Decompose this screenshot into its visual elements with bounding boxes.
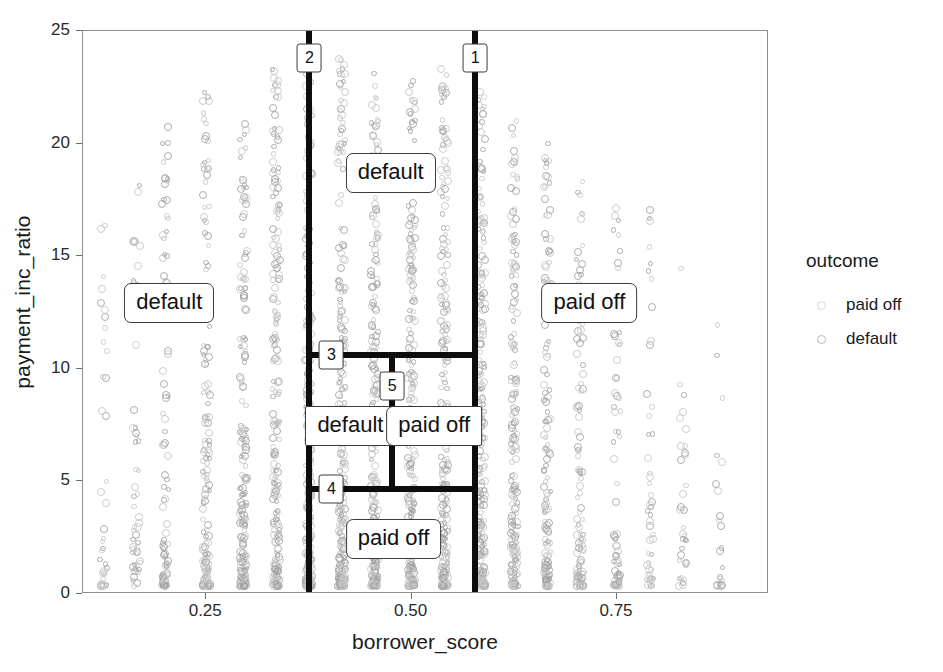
scatter-point: [438, 267, 446, 275]
scatter-point: [242, 228, 248, 234]
scatter-point: [574, 272, 582, 280]
scatter-point: [515, 176, 521, 182]
scatter-point: [714, 353, 720, 359]
scatter-point: [204, 539, 212, 547]
scatter-point: [717, 522, 725, 530]
scatter-point: [370, 571, 376, 577]
scatter-point: [205, 263, 211, 269]
scatter-point: [579, 370, 587, 378]
legend-item-paid-off[interactable]: paid off: [806, 288, 936, 322]
scatter-point: [166, 541, 172, 547]
scatter-point: [239, 436, 245, 442]
scatter-point: [646, 517, 654, 525]
scatter-point: [679, 490, 687, 498]
scatter-point: [237, 533, 245, 541]
scatter-point: [373, 478, 381, 486]
scatter-point: [271, 284, 279, 292]
scatter-point: [204, 560, 212, 568]
scatter-point: [205, 481, 213, 489]
scatter-point: [274, 93, 282, 101]
scatter-point: [242, 126, 250, 134]
scatter-point: [102, 499, 110, 507]
scatter-point: [511, 133, 517, 139]
tree-node-2[interactable]: 2: [297, 44, 322, 73]
scatter-point: [439, 99, 445, 105]
scatter-point: [136, 468, 142, 474]
scatter-point: [237, 262, 243, 268]
scatter-point: [715, 322, 721, 328]
legend-item-default[interactable]: default: [806, 322, 936, 356]
scatter-point: [408, 369, 414, 375]
scatter-point: [162, 391, 170, 399]
scatter-point: [409, 288, 415, 294]
scatter-point: [479, 176, 485, 182]
scatter-point: [165, 561, 171, 567]
scatter-point: [616, 570, 622, 576]
scatter-point: [444, 386, 450, 392]
scatter-point: [482, 542, 488, 548]
scatter-point: [480, 201, 486, 207]
scatter-point: [508, 522, 516, 530]
scatter-point: [161, 471, 169, 479]
scatter-point: [271, 144, 277, 150]
scatter-point: [716, 512, 724, 520]
scatter-point: [371, 71, 377, 77]
scatter-point: [242, 306, 250, 314]
scatter-point: [611, 559, 617, 565]
scatter-point: [544, 211, 552, 219]
scatter-point: [272, 417, 278, 423]
scatter-point: [161, 236, 167, 242]
scatter-point: [479, 386, 485, 392]
scatter-point: [271, 175, 279, 183]
tree-node-5[interactable]: 5: [380, 371, 405, 400]
scatter-point: [514, 252, 520, 258]
y-tick-label: 10: [28, 358, 70, 378]
scatter-point: [410, 341, 418, 349]
scatter-point: [98, 407, 106, 415]
scatter-point: [576, 433, 584, 441]
scatter-point: [161, 537, 167, 543]
scatter-point: [240, 294, 248, 302]
scatter-point: [238, 155, 244, 161]
scatter-point: [374, 276, 380, 282]
tree-node-4[interactable]: 4: [319, 475, 344, 504]
scatter-point: [275, 300, 281, 306]
scatter-point: [132, 341, 140, 349]
scatter-point: [372, 306, 380, 314]
scatter-point: [478, 194, 484, 200]
scatter-point: [243, 185, 249, 191]
scatter-point: [164, 213, 170, 219]
scatter-point: [269, 127, 277, 135]
scatter-point: [341, 284, 349, 292]
scatter-point: [371, 317, 377, 323]
scatter-point: [648, 492, 654, 498]
scatter-point: [203, 171, 211, 179]
y-tick-mark: [76, 593, 82, 594]
scatter-point: [649, 276, 655, 282]
scatter-point: [338, 325, 346, 333]
tree-split-line-vertical: [472, 31, 478, 593]
scatter-point: [240, 492, 246, 498]
scatter-point: [511, 408, 519, 416]
scatter-point: [445, 252, 451, 258]
scatter-point: [164, 152, 172, 160]
scatter-point: [615, 339, 623, 347]
scatter-point: [131, 483, 139, 491]
scatter-point: [206, 391, 214, 399]
scatter-point: [616, 395, 622, 401]
scatter-point: [335, 199, 343, 207]
scatter-point: [274, 77, 282, 85]
scatter-point: [273, 474, 279, 480]
scatter-point: [273, 468, 279, 474]
scatter-point: [411, 500, 417, 506]
scatter-point: [580, 179, 586, 185]
tree-node-3[interactable]: 3: [319, 340, 344, 369]
scatter-point: [720, 395, 726, 401]
tree-node-1[interactable]: 1: [463, 44, 488, 73]
scatter-point: [163, 520, 171, 528]
scatter-point: [162, 429, 168, 435]
scatter-point: [714, 453, 720, 459]
scatter-point: [275, 552, 281, 558]
scatter-point: [576, 563, 582, 569]
scatter-point: [646, 413, 652, 419]
